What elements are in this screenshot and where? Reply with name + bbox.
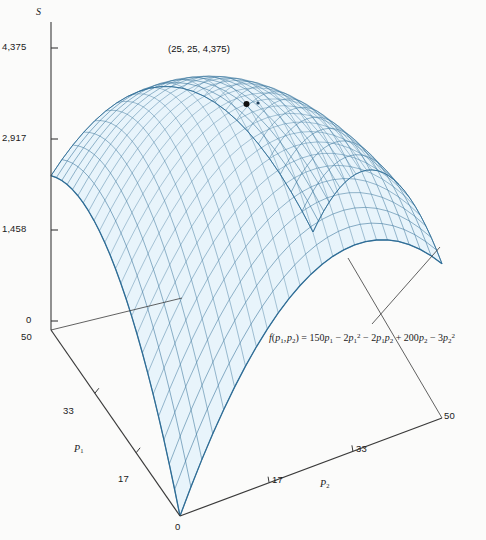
p2-tick-label-17: 17	[272, 474, 283, 485]
max-point-marker	[244, 101, 250, 107]
p1-tick-label-50: 50	[21, 331, 32, 342]
p1-tick-label-17: 17	[118, 473, 129, 484]
plot-canvas	[0, 0, 486, 540]
max-point-annotation: (25, 25, 4,375)	[168, 43, 230, 54]
surface-plot-figure: S 4,375 2,917 1,458 0 50 33 17 0 P1 17 3…	[0, 0, 486, 540]
z-tick-label-2917: 2,917	[2, 132, 26, 143]
z-tick-label-1458: 1,458	[2, 223, 26, 234]
p1-tick-33	[95, 388, 99, 393]
axis-label-p1: P1	[74, 443, 84, 454]
formula-leader-line	[372, 247, 440, 324]
axis-label-p1-sub: 1	[80, 447, 83, 454]
z-tick-label-4375: 4,375	[2, 41, 26, 52]
axis-label-p2-sub: 2	[326, 482, 329, 489]
p2-tick-17	[268, 477, 269, 483]
p2-tick-label-33: 33	[356, 443, 367, 454]
p1-tick-label-33: 33	[63, 405, 74, 416]
p1-tick-label-0: 0	[175, 521, 180, 532]
function-formula: f(p1, p2) = 150p1 − 2p12 − 2p1p2 + 200p2…	[269, 332, 455, 345]
z-tick-label-0: 0	[26, 314, 31, 325]
surface-fill	[51, 76, 442, 516]
surface-point-marker	[256, 101, 259, 104]
axis-p2	[180, 418, 442, 516]
axis-label-s: S	[36, 6, 41, 17]
axis-label-p2: P2	[320, 478, 330, 489]
p1-tick-17	[136, 448, 140, 453]
p2-tick-label-50: 50	[444, 410, 455, 421]
p2-tick-33	[352, 445, 353, 451]
